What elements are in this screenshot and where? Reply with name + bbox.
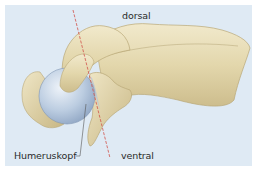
- shoulder-anatomy-figure: dorsal ventral Humeruskopf: [0, 0, 259, 176]
- label-ventral: ventral: [121, 150, 154, 161]
- label-humeral-head: Humeruskopf: [14, 150, 76, 161]
- label-dorsal: dorsal: [122, 10, 151, 21]
